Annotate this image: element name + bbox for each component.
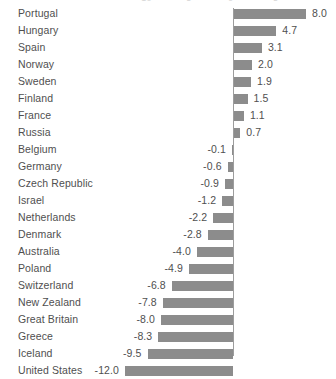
category-label: Portugal <box>18 5 58 22</box>
chart-row: Russia0.7 <box>0 124 336 141</box>
bar <box>234 60 252 70</box>
category-label: Germany <box>18 158 62 175</box>
bar <box>158 332 233 342</box>
value-label: -0.6 <box>203 158 222 175</box>
bar <box>208 230 233 240</box>
bar <box>234 43 262 53</box>
chart-row: Hungary4.7 <box>0 22 336 39</box>
chart-row: Portugal8.0 <box>0 5 336 22</box>
value-label: -6.8 <box>147 277 166 294</box>
chart-row: Switzerland-6.8 <box>0 277 336 294</box>
value-label: -8.0 <box>137 311 156 328</box>
bar <box>234 94 248 104</box>
value-label: -7.8 <box>138 294 157 311</box>
bar <box>225 179 233 189</box>
chart-row: Iceland-9.5 <box>0 345 336 362</box>
bar <box>228 162 233 172</box>
bar <box>125 366 233 376</box>
value-label: 1.5 <box>254 90 269 107</box>
bar <box>234 77 251 87</box>
value-label: -9.5 <box>123 345 142 362</box>
chart-row: Germany-0.6 <box>0 158 336 175</box>
category-label: Greece <box>18 328 53 345</box>
value-label: -1.2 <box>198 192 217 209</box>
bar <box>148 349 234 359</box>
chart-row: Israel-1.2 <box>0 192 336 209</box>
value-label: -0.1 <box>208 141 227 158</box>
category-label: Hungary <box>18 22 58 39</box>
category-label: Switzerland <box>18 277 73 294</box>
value-label: 2.0 <box>258 56 273 73</box>
value-label: -0.9 <box>200 175 219 192</box>
bar <box>189 264 233 274</box>
bar <box>232 145 233 155</box>
value-label: 4.7 <box>282 22 297 39</box>
bar <box>161 315 233 325</box>
bar <box>163 298 233 308</box>
bar <box>213 213 233 223</box>
value-label: 1.1 <box>250 107 265 124</box>
category-label: United States <box>18 362 82 379</box>
bar <box>234 128 240 138</box>
value-label: -8.3 <box>134 328 153 345</box>
chart-row: Denmark-2.8 <box>0 226 336 243</box>
bar <box>222 196 233 206</box>
chart-row: Greece-8.3 <box>0 328 336 345</box>
value-label: -4.0 <box>173 243 192 260</box>
category-label: Spain <box>18 39 45 56</box>
chart-row: Sweden1.9 <box>0 73 336 90</box>
chart-row: Belgium-0.1 <box>0 141 336 158</box>
category-label: Denmark <box>18 226 61 243</box>
value-label: 3.1 <box>268 39 283 56</box>
category-label: Netherlands <box>18 209 76 226</box>
bar <box>234 111 244 121</box>
category-label: Russia <box>18 124 51 141</box>
chart-row: France1.1 <box>0 107 336 124</box>
bar <box>234 26 276 36</box>
category-label: Finland <box>18 90 53 107</box>
chart-row: New Zealand-7.8 <box>0 294 336 311</box>
value-label: 8.0 <box>312 5 327 22</box>
value-label: -4.9 <box>164 260 183 277</box>
bar <box>172 281 233 291</box>
category-label: France <box>18 107 51 124</box>
value-label: 0.7 <box>246 124 261 141</box>
chart-row: Finland1.5 <box>0 90 336 107</box>
category-label: Belgium <box>18 141 57 158</box>
category-label: Norway <box>18 56 54 73</box>
category-label: Poland <box>18 260 51 277</box>
chart-row: Netherlands-2.2 <box>0 209 336 226</box>
value-label: -2.8 <box>183 226 202 243</box>
category-label: Israel <box>18 192 44 209</box>
category-label: Czech Republic <box>18 175 93 192</box>
chart-row: Australia-4.0 <box>0 243 336 260</box>
category-label: New Zealand <box>18 294 81 311</box>
bar <box>234 9 306 19</box>
chart-row: Great Britain-8.0 <box>0 311 336 328</box>
category-label: Australia <box>18 243 60 260</box>
value-label: 1.9 <box>257 73 272 90</box>
chart-row: Norway2.0 <box>0 56 336 73</box>
category-label: Iceland <box>18 345 53 362</box>
chart-row: Poland-4.9 <box>0 260 336 277</box>
category-label: Sweden <box>18 73 57 90</box>
value-label: -12.0 <box>95 362 119 379</box>
chart-row: Czech Republic-0.9 <box>0 175 336 192</box>
chart-row: Spain3.1 <box>0 39 336 56</box>
category-label: Great Britain <box>18 311 78 328</box>
bar <box>197 247 233 257</box>
chart-row: United States-12.0 <box>0 362 336 379</box>
value-label: -2.2 <box>189 209 208 226</box>
